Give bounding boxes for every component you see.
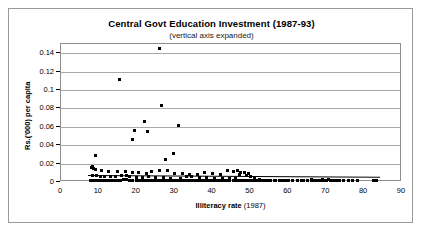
- data-point: [351, 179, 354, 182]
- x-axis-tick-label: 60: [267, 186, 307, 195]
- data-point: [211, 172, 214, 175]
- data-point: [268, 179, 271, 182]
- y-axis-tick-mark: [56, 163, 60, 164]
- x-axis-label-year: (1987): [242, 201, 266, 210]
- data-point: [164, 158, 167, 161]
- data-point: [137, 171, 140, 174]
- data-point: [279, 179, 282, 182]
- x-axis-tick-label: 90: [381, 186, 421, 195]
- x-axis-tick-label: 0: [40, 186, 80, 195]
- data-point: [372, 179, 375, 182]
- data-point: [133, 129, 136, 132]
- y-axis-tick-mark: [56, 52, 60, 53]
- data-point: [116, 170, 119, 173]
- data-point: [237, 179, 240, 182]
- data-point: [375, 179, 378, 182]
- gridline: [61, 72, 400, 73]
- data-point: [118, 78, 121, 81]
- data-point: [302, 179, 305, 182]
- x-axis-tick-label: 20: [116, 186, 156, 195]
- x-axis-label: Illiteracy rate (1987): [60, 201, 401, 210]
- data-point: [226, 169, 229, 172]
- data-point: [335, 179, 338, 182]
- y-axis-tick-mark: [56, 181, 60, 182]
- gridline: [61, 90, 400, 91]
- data-point: [306, 179, 309, 182]
- y-axis-tick-label: 0: [9, 177, 54, 186]
- data-point: [107, 170, 110, 173]
- data-point: [160, 104, 163, 107]
- y-axis-tick-label: 0.08: [9, 103, 54, 112]
- y-axis-tick-mark: [56, 126, 60, 127]
- data-point: [263, 179, 266, 182]
- gridline: [61, 145, 400, 146]
- data-point: [143, 120, 146, 123]
- data-point: [274, 179, 277, 182]
- y-axis-tick-label: 0.12: [9, 66, 54, 75]
- data-point: [342, 179, 345, 182]
- data-point: [203, 171, 206, 174]
- data-point: [94, 154, 97, 157]
- gridline: [61, 53, 400, 54]
- y-axis-tick-mark: [56, 71, 60, 72]
- x-axis-tick-label: 30: [154, 186, 194, 195]
- data-point: [291, 179, 294, 182]
- x-axis-label-main: Illiteracy rate: [195, 201, 241, 210]
- data-point: [232, 170, 235, 173]
- y-axis-tick-label: 0.02: [9, 158, 54, 167]
- y-axis-tick-label: 0.14: [9, 48, 54, 57]
- gridline: [61, 127, 400, 128]
- data-point: [124, 170, 127, 173]
- y-axis-tick-label: 0.06: [9, 121, 54, 130]
- data-point: [131, 171, 134, 174]
- x-axis-tick-label: 80: [343, 186, 383, 195]
- data-point: [146, 130, 149, 133]
- data-point: [296, 179, 299, 182]
- data-point: [241, 179, 244, 182]
- data-point: [131, 138, 134, 141]
- data-point: [356, 179, 359, 182]
- data-point: [172, 152, 175, 155]
- y-axis-tick-mark: [56, 89, 60, 90]
- data-point: [158, 169, 161, 172]
- data-point: [327, 178, 330, 181]
- plot-area: [60, 43, 401, 181]
- data-point: [321, 178, 324, 181]
- chart-title: Central Govt Education Investment (1987-…: [9, 18, 414, 29]
- gridline: [61, 108, 400, 109]
- gridline: [61, 164, 400, 165]
- data-point: [310, 178, 313, 181]
- y-axis-tick-label: 0.1: [9, 85, 54, 94]
- data-point: [338, 179, 341, 182]
- data-point: [347, 179, 350, 182]
- data-point: [236, 169, 239, 172]
- x-axis-tick-label: 10: [78, 186, 118, 195]
- x-axis-tick-label: 50: [229, 186, 269, 195]
- data-point: [158, 47, 161, 50]
- y-axis-tick-mark: [56, 107, 60, 108]
- data-point: [94, 168, 97, 171]
- data-point: [100, 169, 103, 172]
- data-point: [166, 169, 169, 172]
- x-axis-tick-label: 70: [305, 186, 345, 195]
- y-axis-tick-label: 0.04: [9, 140, 54, 149]
- chart-subtitle: (vertical axis expanded): [9, 31, 414, 40]
- data-point: [177, 124, 180, 127]
- data-point: [253, 177, 256, 180]
- chart-frame: Central Govt Education Investment (1987-…: [8, 8, 413, 223]
- x-axis-tick-label: 40: [192, 186, 232, 195]
- data-point: [258, 178, 261, 181]
- data-point: [150, 170, 153, 173]
- y-axis-tick-mark: [56, 144, 60, 145]
- data-point: [285, 179, 288, 182]
